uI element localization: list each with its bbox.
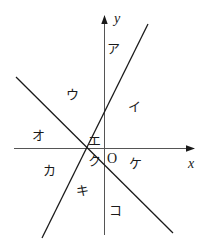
region-label-ke: ケ [129, 157, 142, 170]
region-label-ku: ク [88, 154, 101, 167]
region-label-o: オ [32, 129, 45, 142]
origin-label: O [107, 152, 117, 166]
x-axis-label: x [188, 157, 194, 171]
coordinate-plane-figure: y x O ア イ ウ エ オ カ キ ク ケ コ [0, 0, 208, 250]
ascending-line [42, 24, 148, 238]
region-label-i: イ [128, 100, 141, 113]
figure-canvas [0, 0, 208, 250]
region-label-ko: コ [109, 204, 122, 217]
region-label-ka: カ [43, 164, 56, 177]
region-label-a: ア [107, 42, 120, 55]
region-label-u: ウ [66, 88, 79, 101]
region-label-ki: キ [76, 184, 89, 197]
region-label-e: エ [88, 134, 101, 147]
y-axis-label: y [114, 12, 120, 26]
